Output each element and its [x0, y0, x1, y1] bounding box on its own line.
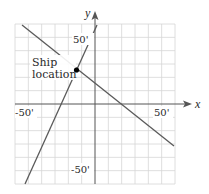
- descending-line: [22, 25, 174, 146]
- y-pos-tick-label: 50': [73, 34, 88, 45]
- x-axis-label: x: [194, 97, 201, 111]
- x-pos-tick-label: 50': [154, 107, 169, 118]
- x-neg-tick-label: -50': [15, 107, 34, 118]
- y-axis-label: y: [84, 6, 91, 20]
- coordinate-diagram: Ship location 50' -50' -50' 50' x y: [0, 0, 209, 194]
- ship-label-line2: location: [32, 68, 77, 81]
- y-neg-tick-label: -50': [71, 164, 90, 175]
